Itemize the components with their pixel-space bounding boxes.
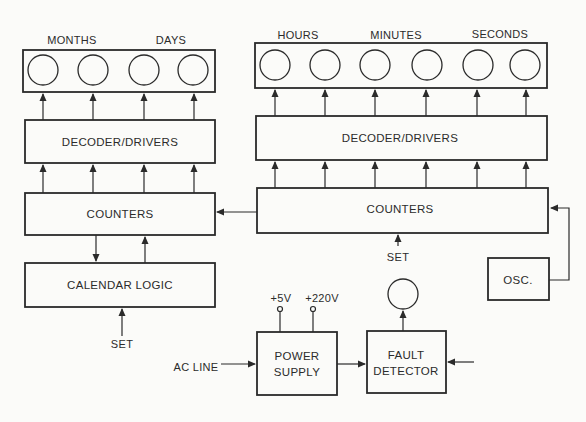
terminal-220v [311,307,316,312]
right-counters-label: COUNTERS [367,202,434,217]
display-lamp [360,50,390,80]
power-supply-box [257,332,337,395]
minutes-label: MINUTES [370,29,422,41]
v5-label: +5V [271,292,292,304]
hours-label: HOURS [277,29,318,41]
left-counters-label: COUNTERS [87,207,154,222]
months-label: MONTHS [47,34,96,46]
v220-label: +220V [305,292,339,304]
display-lamp [310,50,340,80]
display-lamp [510,50,540,80]
fault-label-2: DETECTOR [373,364,438,379]
power-supply-label-1: POWER [275,349,320,364]
calendar-logic-label: CALENDAR LOGIC [67,278,173,293]
right-display-panel [255,43,547,88]
time-set-label: SET [387,251,409,263]
right-decoder-label: DECODER/DRIVERS [342,131,458,146]
left-decoder-label: DECODER/DRIVERS [62,135,178,150]
display-lamp [129,55,159,85]
power-supply-label-2: SUPPLY [274,365,320,380]
calendar-set-label: SET [111,338,133,350]
fault-label-1: FAULT [388,348,424,363]
seconds-label: SECONDS [472,28,529,40]
display-lamp [28,55,58,85]
display-lamp [178,55,208,85]
ac-line-label: AC LINE [174,361,219,373]
display-lamp [463,50,493,80]
display-lamp [412,50,442,80]
days-label: DAYS [156,34,186,46]
osc-label: OSC. [503,273,532,288]
display-lamp [78,55,108,85]
fault-indicator-lamp [388,279,418,309]
display-lamp [260,50,290,80]
terminal-5v [278,307,283,312]
